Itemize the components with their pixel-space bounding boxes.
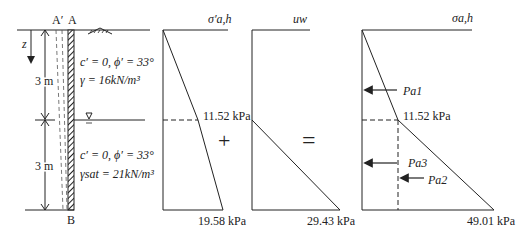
- layer1-unit-weight: γ = 16kN/m³: [80, 73, 140, 87]
- earth-pressure-diagram: A′ A B z 3 m 3 m c′ = 0, ϕ′ = 33° γ = 16…: [0, 0, 529, 238]
- total-stress-title: σa,h: [452, 11, 473, 25]
- force-label-pa2: Pa2: [427, 173, 447, 187]
- pore-pressure-title: uw: [293, 12, 307, 26]
- label-a-prime: A′: [52, 13, 64, 27]
- layer1-strength: c′ = 0, ϕ′ = 33°: [80, 55, 154, 69]
- effective-bottom-value: 19.58 kPa: [198, 214, 247, 228]
- force-label-pa1: Pa1: [402, 84, 422, 98]
- displaced-wall-outline: [56, 30, 67, 210]
- retaining-wall: [68, 30, 74, 210]
- layer2-strength: c′ = 0, ϕ′ = 33°: [80, 148, 154, 162]
- layer2-thickness: 3 m: [35, 159, 54, 173]
- effective-stress-title: σ′a,h: [208, 12, 232, 26]
- total-mid-value: 11.52 kPa: [403, 109, 451, 123]
- total-stress-diagram: σa,h 11.52 kPa 49.01 kPa Pa1 Pa3 Pa2: [362, 11, 516, 228]
- layer2-unit-weight: γsat = 21kN/m³: [80, 167, 154, 181]
- ground-surface-icon: [88, 28, 112, 34]
- plus-sign: +: [218, 128, 230, 153]
- equals-sign: =: [302, 127, 316, 153]
- wall-section: A′ A B z 3 m 3 m c′ = 0, ϕ′ = 33° γ = 16…: [17, 13, 154, 227]
- depth-axis-label: z: [21, 37, 27, 51]
- pore-bottom-value: 29.43 kPa: [307, 214, 356, 228]
- effective-mid-value: 11.52 kPa: [203, 109, 251, 123]
- layer1-thickness: 3 m: [35, 74, 54, 88]
- water-table-icon: [86, 113, 92, 123]
- label-b: B: [67, 213, 75, 227]
- total-bottom-value: 49.01 kPa: [467, 214, 516, 228]
- label-a: A: [68, 13, 77, 27]
- pore-pressure-diagram: uw 29.43 kPa: [252, 12, 356, 228]
- effective-stress-diagram: σ′a,h 11.52 kPa 19.58 kPa: [163, 12, 251, 228]
- force-label-pa3: Pa3: [407, 156, 427, 170]
